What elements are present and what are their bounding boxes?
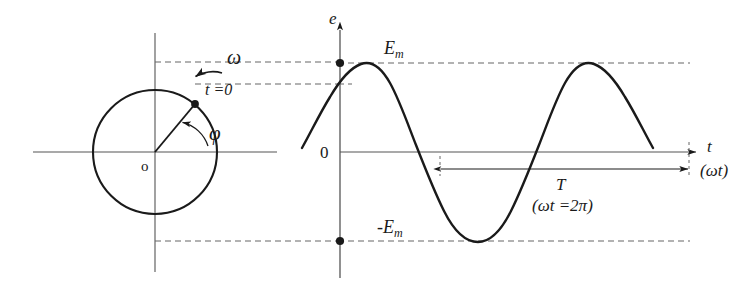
phasor-radius-vector — [155, 104, 195, 152]
trough-level-label: -Em — [341, 217, 431, 240]
e-min-marker — [336, 237, 344, 245]
phase-angle-arc — [183, 122, 209, 146]
peak-level-label: Em — [348, 38, 432, 61]
angular-velocity-arrow — [196, 72, 223, 77]
wave-zero-label: 0 — [320, 143, 329, 162]
period-label: T — [556, 175, 567, 194]
diagram-canvas: o φ ω t =0 e 0 Em -Em — [0, 0, 747, 286]
wave-panel: e 0 Em -Em t (ωt) T (ωt =2π) — [302, 9, 728, 278]
phasor-tip-label: t =0 — [205, 81, 232, 98]
figure-root: o φ ω t =0 e 0 Em -Em — [0, 0, 747, 286]
phasor-panel: o φ ω t =0 — [33, 33, 338, 272]
origin-label: o — [141, 158, 149, 174]
e-max-marker — [336, 59, 344, 67]
phasor-tip-marker — [191, 100, 199, 108]
angular-velocity-label: ω — [227, 46, 241, 68]
wave-y-axis-label: e — [329, 9, 337, 28]
period-sublabel: (ωt =2π) — [532, 196, 593, 215]
peak-label-sub: m — [395, 47, 404, 61]
wave-x-axis-label: t — [707, 137, 713, 156]
trough-label-sub: m — [394, 226, 403, 240]
wave-x-axis-sublabel: (ωt) — [700, 161, 728, 180]
peak-label-main: E — [383, 38, 395, 58]
trough-label-main: -E — [377, 217, 394, 237]
phase-angle-label: φ — [209, 121, 221, 145]
